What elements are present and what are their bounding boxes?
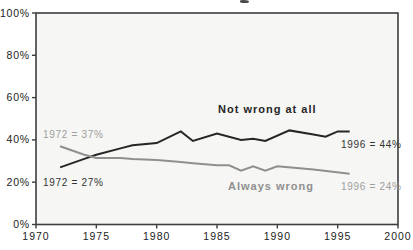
y-tick-label: 80% [7,49,30,61]
annotation-1972-27: 1972 = 27% [43,177,104,188]
y-tick-label: 40% [7,133,30,145]
x-tick-label: 1985 [203,230,230,242]
series-label-not-wrong-at-all: Not wrong at all [218,104,317,115]
annotation-1996-24: 1996 = 24% [341,181,402,192]
plot-svg: 0%20%40%60%80%100%1970197519801985199019… [0,0,413,250]
x-tick-label: 1980 [143,230,170,242]
x-tick-label: 2000 [384,230,411,242]
y-tick-label: 0% [13,218,30,230]
x-tick-label: 1995 [324,230,351,242]
y-tick-label: 100% [0,7,30,19]
plot-area [36,13,398,225]
line-chart: 0%20%40%60%80%100%1970197519801985199019… [0,0,413,250]
series-label-always-wrong: Always wrong [228,181,314,192]
y-tick-label: 20% [7,176,30,188]
y-tick-label: 60% [7,91,30,103]
annotation-1972-37: 1972 = 37% [43,129,104,140]
x-tick-label: 1970 [22,230,49,242]
x-tick-label: 1990 [264,230,291,242]
annotation-1996-44: 1996 = 44% [341,139,402,150]
cropped-title-fragment [240,0,249,3]
x-tick-label: 1975 [83,230,110,242]
